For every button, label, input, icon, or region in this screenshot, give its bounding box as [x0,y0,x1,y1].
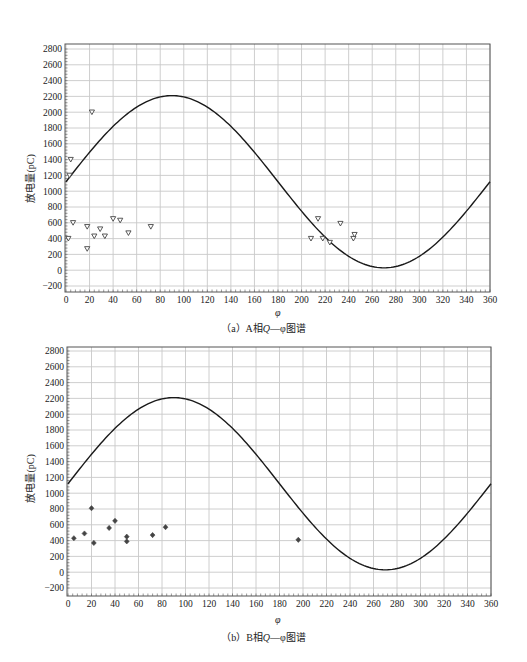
svg-text:80: 80 [157,599,167,609]
svg-text:200: 200 [48,250,63,260]
svg-text:200: 200 [296,599,311,609]
svg-text:20: 20 [87,599,97,609]
svg-text:220: 220 [319,599,334,609]
data-point-diamond [82,531,87,536]
svg-text:0: 0 [57,266,62,276]
svg-text:0: 0 [66,599,71,609]
data-point-diamond [113,518,118,523]
svg-text:320: 320 [437,599,452,609]
svg-text:280: 280 [389,295,404,305]
data-point-triangle [148,225,153,230]
svg-text:240: 240 [342,295,357,305]
svg-text:100: 100 [178,599,193,609]
chart-b-grid [67,347,491,596]
chart-a-phase-a: −200020040060080010001200140016001800200… [0,0,527,340]
svg-text:2400: 2400 [43,76,62,86]
data-point-triangle [315,217,320,222]
data-point-triangle [98,227,103,232]
svg-text:300: 300 [412,295,427,305]
svg-text:200: 200 [294,295,309,305]
svg-text:0: 0 [59,568,64,578]
svg-text:0: 0 [64,295,69,305]
chart-a-y-axis-label: 放电量(pC) [22,133,37,203]
svg-text:160: 160 [247,295,262,305]
svg-text:1000: 1000 [45,489,64,499]
chart-b-caption-prefix: （b）B相 [221,632,263,643]
svg-text:1400: 1400 [43,155,62,165]
svg-text:140: 140 [224,295,239,305]
svg-text:2600: 2600 [43,60,62,70]
data-point-triangle [338,221,343,226]
svg-text:400: 400 [48,234,63,244]
svg-text:100: 100 [177,295,192,305]
svg-text:260: 260 [365,295,380,305]
chart-b-frame [67,347,491,596]
svg-text:60: 60 [134,599,144,609]
chart-a-caption-suffix: —φ图谱 [270,323,306,334]
svg-text:2800: 2800 [45,346,64,356]
data-point-diamond [296,537,301,542]
chart-b-phase-b: −200020040060080010001200140016001800200… [0,335,527,662]
chart-a-minor-ticks [65,49,490,292]
svg-text:340: 340 [460,599,475,609]
svg-text:60: 60 [132,295,142,305]
svg-text:600: 600 [48,218,63,228]
data-point-triangle [126,231,131,236]
svg-text:120: 120 [202,599,217,609]
svg-text:120: 120 [200,295,215,305]
chart-b-caption-q: Q [263,632,270,643]
chart-a-caption-prefix: （a）A相 [221,323,263,334]
svg-text:1000: 1000 [43,187,62,197]
data-point-triangle [85,225,90,230]
svg-text:2200: 2200 [45,394,64,404]
data-point-triangle [118,218,123,223]
svg-text:400: 400 [50,536,65,546]
svg-text:40: 40 [108,295,118,305]
svg-text:300: 300 [413,599,428,609]
chart-a-caption-q: Q [263,323,270,334]
chart-b-caption-suffix: —φ图谱 [270,632,306,643]
data-point-diamond [71,536,76,541]
svg-text:1800: 1800 [43,123,62,133]
svg-text:2000: 2000 [45,410,64,420]
svg-text:800: 800 [50,504,65,514]
chart-b-plot: −200020040060080010001200140016001800200… [0,335,527,662]
data-point-triangle [92,234,97,239]
svg-text:200: 200 [50,552,65,562]
data-point-triangle [102,234,107,239]
svg-text:360: 360 [484,599,499,609]
svg-text:20: 20 [85,295,95,305]
chart-b-data-points [71,506,300,546]
svg-text:1200: 1200 [43,171,62,181]
svg-text:280: 280 [390,599,405,609]
svg-text:220: 220 [318,295,333,305]
chart-a-grid [65,44,490,292]
svg-text:−200: −200 [42,281,62,291]
chart-b-caption: （b）B相Q—φ图谱 [0,629,527,644]
data-point-diamond [150,532,155,537]
svg-text:180: 180 [271,295,286,305]
data-point-diamond [91,540,96,545]
chart-a-plot: −200020040060080010001200140016001800200… [0,0,527,340]
data-point-diamond [89,506,94,511]
svg-text:140: 140 [225,599,240,609]
svg-text:160: 160 [249,599,264,609]
chart-b-y-axis-label: 放电量(pC) [22,433,37,503]
svg-text:2000: 2000 [43,108,62,118]
svg-text:1200: 1200 [45,473,64,483]
svg-text:2800: 2800 [43,44,62,54]
svg-text:2600: 2600 [45,362,64,372]
chart-a-tick-labels: −200020040060080010001200140016001800200… [42,44,497,305]
svg-text:1400: 1400 [45,457,64,467]
svg-text:2200: 2200 [43,92,62,102]
svg-text:1600: 1600 [45,441,64,451]
svg-text:−200: −200 [44,583,64,593]
svg-text:1600: 1600 [43,139,62,149]
svg-text:260: 260 [366,599,381,609]
chart-a-data-points [66,110,357,251]
chart-b-minor-ticks [67,351,491,596]
svg-text:180: 180 [272,599,287,609]
svg-text:240: 240 [343,599,358,609]
chart-a-caption: （a）A相Q—φ图谱 [0,320,527,335]
chart-b-x-axis-label: φ [275,614,281,625]
